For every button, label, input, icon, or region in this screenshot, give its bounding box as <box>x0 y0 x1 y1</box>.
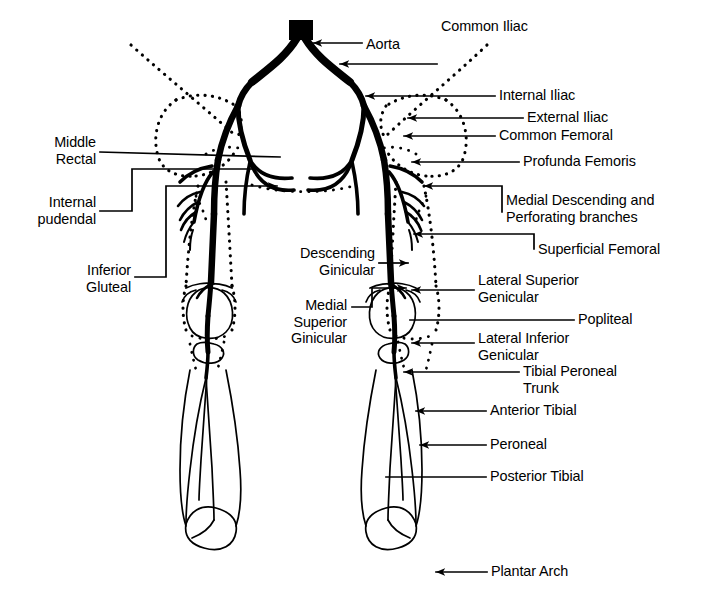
label-external-iliac: External Iliac <box>527 109 608 126</box>
common-iliac-left <box>252 38 297 82</box>
plantar-arch-right <box>366 507 417 550</box>
popliteal-right <box>394 316 395 352</box>
leader-middle-rectal[interactable] <box>100 152 280 157</box>
anatomy-svg <box>0 0 715 610</box>
label-internal-pudendal: Internal pudendal <box>38 194 96 227</box>
superficial-femoral-left <box>211 214 214 282</box>
label-lateral-superior-genicular: Lateral Superior Genicular <box>478 272 579 305</box>
knee-outline-right-lateral <box>436 286 439 330</box>
label-tibial-peroneal-trunk: Tibial Peroneal Trunk <box>523 363 617 396</box>
label-common-iliac: Common Iliac <box>441 18 528 35</box>
aorta-and-iliac-arteries <box>218 20 384 160</box>
common-iliac-right <box>305 38 350 82</box>
label-medial-descending-perforating: Medial Descending and Perforating branch… <box>506 192 654 225</box>
fibula-outline-right <box>398 342 404 368</box>
common-iliac-right-distal <box>350 82 364 106</box>
label-internal-iliac: Internal Iliac <box>499 87 575 104</box>
label-medial-superior-ginicular: Medial Superior Ginicular <box>291 297 347 347</box>
label-superficial-femoral: Superficial Femoral <box>538 241 660 258</box>
label-aorta: Aorta <box>366 36 400 53</box>
tibia-outline-right <box>426 344 432 370</box>
label-middle-rectal: Middle Rectal <box>54 134 96 167</box>
label-popliteal: Popliteal <box>578 311 632 328</box>
iliac-crest-pointer-right <box>386 45 487 136</box>
anterior-tibial-left <box>186 378 206 524</box>
plantar-arch-left <box>186 507 237 550</box>
plantar-crossing-left <box>192 520 214 538</box>
popliteal-left <box>207 316 208 352</box>
calf-outline-left-medial <box>226 370 241 526</box>
femur-outline-left-lateral <box>226 182 232 286</box>
perforating-branch-right-5 <box>409 230 412 250</box>
calf-outline-right-medial <box>361 370 376 526</box>
calf-outline-right-lateral <box>412 370 422 526</box>
external-iliac-right <box>364 106 384 160</box>
common-iliac-left-distal <box>238 82 252 106</box>
left-label-leaders <box>100 152 408 307</box>
calf-outline-left-lateral <box>180 370 190 526</box>
anterior-tibial-right <box>396 378 416 524</box>
femur-outline-right-lateral <box>424 186 436 286</box>
label-peroneal: Peroneal <box>490 436 547 453</box>
plantar-crossing-right <box>388 520 410 538</box>
iliac-crest-pointer-left <box>131 45 236 136</box>
label-posterior-tibial: Posterior Tibial <box>490 468 584 485</box>
label-descending-ginicular: Descending Ginicular <box>300 245 375 278</box>
common-femoral-right <box>384 160 388 214</box>
label-anterior-tibial: Anterior Tibial <box>490 402 576 419</box>
pelvis-outline-right-inner <box>381 106 386 140</box>
profunda-femoris-right-main <box>389 172 408 222</box>
label-common-femoral: Common Femoral <box>499 127 613 144</box>
perforating-branch-left-5 <box>190 230 193 250</box>
knee-outline-right-medial <box>387 286 390 330</box>
pelvis-outline-left-crest <box>176 95 236 106</box>
internal-iliac-descending-right <box>352 162 358 214</box>
pelvis-outline-left-wing <box>156 100 196 176</box>
arterial-anatomy-diagram: Aorta Common Iliac Internal Iliac Extern… <box>0 0 715 610</box>
label-inferior-gluteal: Inferior Gluteal <box>86 262 131 295</box>
peroneal-right <box>388 378 396 520</box>
label-lateral-inferior-genicular: Lateral Inferior Genicular <box>478 330 569 363</box>
aorta-stump <box>289 20 313 40</box>
label-profunda-femoris: Profunda Femoris <box>523 153 636 170</box>
external-iliac-left <box>218 106 238 160</box>
internal-iliac-right <box>352 106 364 160</box>
peroneal-left <box>206 378 214 520</box>
label-plantar-arch: Plantar Arch <box>491 563 568 580</box>
leader-medial-descending[interactable] <box>424 186 502 212</box>
pelvis-outline-right-wing <box>426 100 466 176</box>
knee-outline-left-lateral <box>183 286 186 330</box>
leader-inferior-gluteal[interactable] <box>135 186 277 277</box>
